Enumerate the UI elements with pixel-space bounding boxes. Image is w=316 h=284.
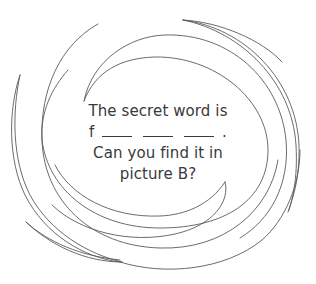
line-2-period: .	[222, 123, 227, 141]
puzzle-line-4: picture B?	[60, 164, 256, 185]
puzzle-card: The secret word is f . Can you find it i…	[0, 0, 316, 284]
puzzle-line-1: The secret word is	[60, 101, 256, 122]
letter-blank-1	[102, 126, 132, 137]
bottom-crescent-outer	[52, 182, 226, 237]
puzzle-line-2: f .	[60, 122, 256, 143]
top-comet-thin	[183, 20, 282, 62]
word-first-letter: f	[89, 123, 94, 141]
letter-blank-2	[143, 126, 173, 137]
letter-blank-3	[184, 126, 214, 137]
puzzle-line-3: Can you find it in	[60, 143, 256, 164]
puzzle-text: The secret word is f . Can you find it i…	[60, 101, 256, 185]
